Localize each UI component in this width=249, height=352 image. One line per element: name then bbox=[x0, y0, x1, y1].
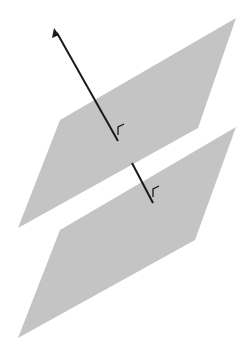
parallel-planes-diagram bbox=[0, 0, 249, 352]
